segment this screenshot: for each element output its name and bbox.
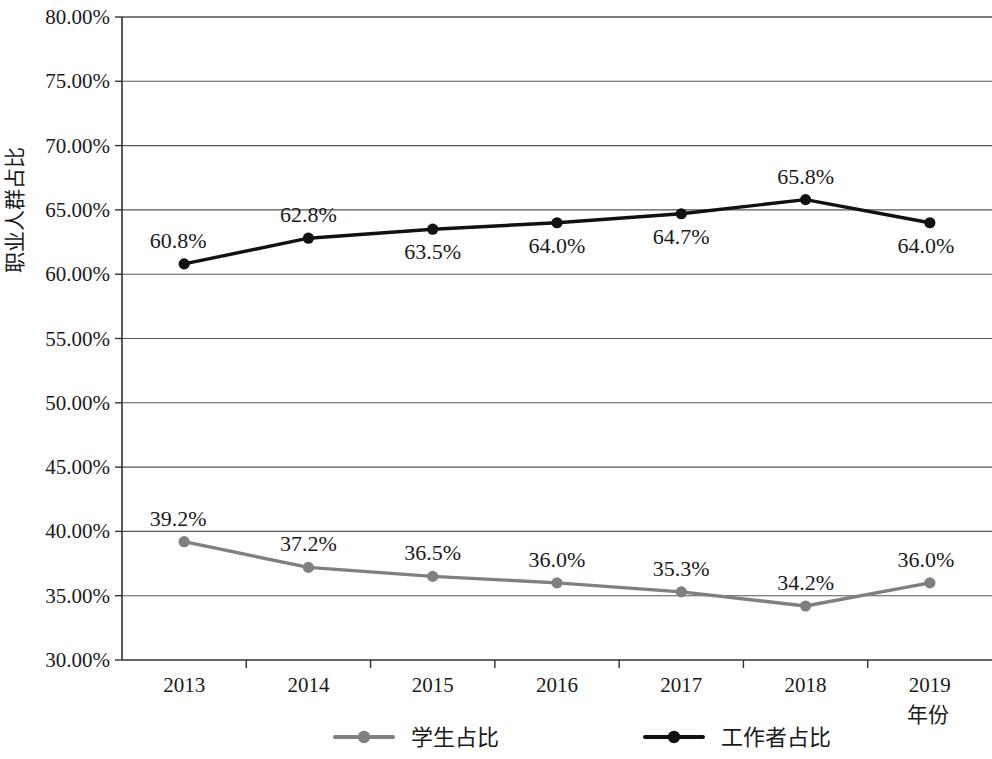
data-point [800,194,811,205]
data-point [303,233,314,244]
data-point [179,258,190,269]
y-axis-tick-labels: 30.00%35.00%40.00%45.00%50.00%55.00%60.0… [45,5,110,672]
chart-legend: 学生占比工作者占比 [335,725,831,750]
data-point-label: 39.2% [150,506,207,531]
legend-marker-icon [358,731,370,743]
x-tick-label: 2018 [785,673,827,697]
y-tick-label: 30.00% [45,648,110,672]
data-point-label: 36.0% [529,547,586,572]
legend-label: 工作者占比 [721,725,831,750]
legend-item-workers[interactable]: 工作者占比 [645,725,831,750]
y-tick-label: 35.00% [45,584,110,608]
data-point-label: 60.8% [150,228,207,253]
y-tick-label: 45.00% [45,455,110,479]
data-point-labels: 39.2%37.2%36.5%36.0%35.3%34.2%36.0%60.8%… [150,164,955,595]
x-tick-label: 2017 [660,673,702,697]
data-point [924,217,935,228]
chart-container: 30.00%35.00%40.00%45.00%50.00%55.00%60.0… [0,0,992,759]
gridlines [122,17,992,596]
y-tick-label: 80.00% [45,5,110,29]
legend-marker-icon [668,731,680,743]
data-point-label: 36.0% [897,547,954,572]
data-point-label: 62.8% [280,202,337,227]
x-axis-title: 年份 [907,703,949,727]
data-point [427,224,438,235]
x-tick-label: 2019 [909,673,951,697]
y-tick-label: 75.00% [45,69,110,93]
data-point [551,217,562,228]
data-point-label: 64.0% [529,233,586,258]
data-point-label: 63.5% [404,239,461,264]
data-point [924,577,935,588]
data-point [551,577,562,588]
legend-item-students[interactable]: 学生占比 [335,725,499,750]
y-tick-label: 60.00% [45,262,110,286]
y-tick-label: 40.00% [45,519,110,543]
data-point-label: 34.2% [777,570,834,595]
legend-label: 学生占比 [411,725,499,750]
data-point-label: 37.2% [280,531,337,556]
y-tick-label: 50.00% [45,391,110,415]
data-point-label: 65.8% [777,164,834,189]
y-tick-label: 65.00% [45,198,110,222]
data-point [676,208,687,219]
y-tick-label: 55.00% [45,327,110,351]
data-point-label: 64.0% [897,233,954,258]
x-tick-label: 2016 [536,673,578,697]
data-point [800,600,811,611]
line-chart: 30.00%35.00%40.00%45.00%50.00%55.00%60.0… [0,0,992,759]
y-axis-tick-marks [115,17,122,660]
data-point [676,586,687,597]
data-point-label: 36.5% [404,540,461,565]
data-point-label: 35.3% [653,556,710,581]
x-tick-label: 2015 [412,673,454,697]
x-axis-tick-labels: 2013201420152016201720182019 [163,673,951,697]
x-tick-label: 2014 [287,673,330,697]
data-point [303,562,314,573]
y-axis-title: 职业人群占比 [3,147,27,273]
data-point [179,536,190,547]
data-point [427,571,438,582]
y-tick-label: 70.00% [45,134,110,158]
x-tick-label: 2013 [163,673,205,697]
data-point-label: 64.7% [653,224,710,249]
x-axis-tick-marks [246,660,867,668]
